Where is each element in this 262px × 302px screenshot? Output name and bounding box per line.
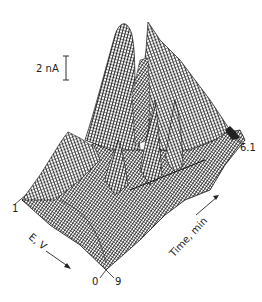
surface-plot-figure: 2 nA 1 E, V 0 9 Time, min 6.1 <box>0 0 262 302</box>
time-axis-end-label: 6.1 <box>240 143 256 153</box>
tallest-peak <box>85 24 140 150</box>
tick-e-end <box>100 270 106 278</box>
e-axis-start-label: 1 <box>12 204 18 214</box>
e-axis-arrow-icon <box>46 251 71 269</box>
surface-mesh <box>0 0 262 302</box>
e-axis-end-label: 0 <box>92 277 98 287</box>
tick-time-start <box>106 270 114 278</box>
scale-bar-label: 2 nA <box>36 64 59 74</box>
scale-bar-icon <box>63 56 69 80</box>
time-axis-start-label: 9 <box>115 277 121 287</box>
time-axis-arrow-icon <box>196 195 219 215</box>
